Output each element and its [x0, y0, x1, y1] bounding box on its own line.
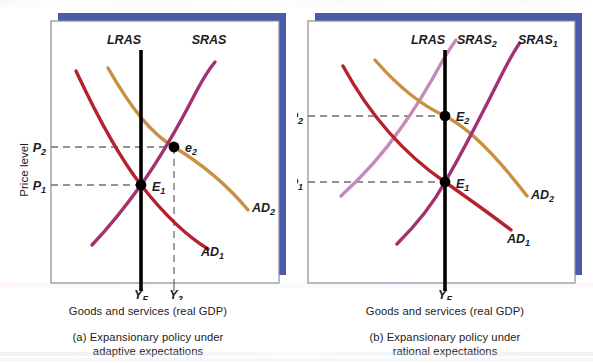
panel-b-x-axis-title: Goods and services (real GDP) — [297, 304, 593, 318]
panel-a-caption-line1: (a) Expansionary policy under — [0, 330, 296, 344]
panel-a-y-axis-title: Price level — [17, 143, 30, 196]
panel-a-plot-box — [51, 21, 279, 283]
panel-a-p1-label: P1 — [33, 179, 46, 195]
panel-a-lras-label: LRAS — [107, 33, 142, 47]
panel-b-sras2-label: SRAS2 — [457, 33, 497, 49]
panel-a-y2-label: Y2 — [169, 288, 182, 300]
panel-a-x-axis-title: Goods and services (real GDP) — [0, 304, 296, 318]
panel-a-plot: LRAS SRAS AD2 AD1 E1 e2 P2 P1 YF Y2 Pric… — [0, 0, 296, 300]
panel-a: LRAS SRAS AD2 AD1 E1 e2 P2 P1 YF Y2 Pric… — [0, 0, 296, 363]
panel-b-plot: LRAS SRAS2 SRAS1 AD2 AD1 E2 E1 P2 P1 YF … — [297, 0, 593, 300]
bottom-divider-secondary — [0, 358, 593, 361]
panel-b-e2-dot — [440, 111, 451, 122]
panel-b-sras1-label: SRAS1 — [518, 33, 558, 49]
panel-a-e1-dot — [136, 180, 147, 191]
panel-b-p1-label: P1 — [297, 176, 303, 192]
panel-a-sras-label: SRAS — [192, 33, 227, 47]
bottom-divider — [0, 352, 593, 356]
panel-b-p2-label: P2 — [297, 110, 303, 126]
panel-a-e2-dot — [169, 142, 180, 153]
panel-b-e1-dot — [440, 177, 451, 188]
panel-b-lras-label: LRAS — [411, 33, 446, 47]
panel-a-yf-label: YF — [134, 288, 148, 300]
scan-artifact-upper — [0, 282, 593, 288]
figure-root: LRAS SRAS AD2 AD1 E1 e2 P2 P1 YF Y2 Pric… — [0, 0, 593, 363]
panel-b-yf-label: YF — [438, 288, 452, 300]
panel-b-caption-line1: (b) Expansionary policy under — [297, 330, 593, 344]
panel-a-p2-label: P2 — [33, 141, 46, 157]
panel-b: LRAS SRAS2 SRAS1 AD2 AD1 E2 E1 P2 P1 YF … — [297, 0, 593, 363]
